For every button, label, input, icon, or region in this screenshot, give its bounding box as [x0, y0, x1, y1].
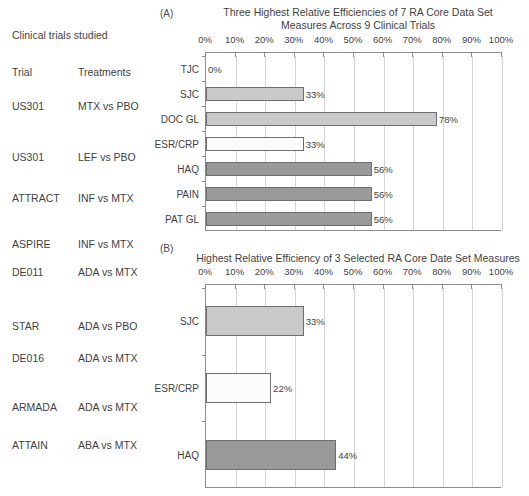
bar-row: 56% [206, 212, 501, 226]
x-tick-label: 20% [255, 266, 274, 277]
gridline [502, 288, 503, 488]
category-label: SJC [144, 88, 199, 99]
category-label: ESR/CRP [144, 383, 199, 394]
x-tick-label: 40% [314, 266, 333, 277]
bar-value-label: 33% [304, 88, 325, 99]
category-label: SJC [144, 316, 199, 327]
bar [206, 440, 336, 470]
x-tick-label: 0% [198, 266, 212, 277]
chart-panel-b: Highest Relative Efficiency of 3 Selecte… [0, 232, 529, 496]
bar-row: 44% [206, 440, 501, 470]
category-label: DOC GL [144, 113, 199, 124]
x-tick-label: 100% [489, 34, 513, 45]
chart-panel-a: Three Highest Relative Efficiencies of 7… [0, 0, 529, 232]
bar-row: 33% [206, 306, 501, 336]
chart-title-line: Measures Across 9 Clinical Trials [190, 19, 526, 32]
bar [206, 112, 437, 126]
bar-value-label: 33% [304, 138, 325, 149]
chart-b-x-tick-labels: 0%10%20%30%40%50%60%70%80%90%100% [0, 266, 529, 280]
chart-a-x-tick-labels: 0%10%20%30%40%50%60%70%80%90%100% [0, 34, 529, 48]
category-label: HAQ [144, 163, 199, 174]
x-tick-label: 80% [432, 34, 451, 45]
x-tick-label: 20% [255, 34, 274, 45]
bar-value-label: 56% [372, 213, 393, 224]
category-label: PAIN [144, 188, 199, 199]
bar-row: 33% [206, 87, 501, 101]
category-tick-mark [202, 131, 206, 132]
x-tick-label: 70% [403, 266, 422, 277]
bar-value-label: 0% [206, 63, 222, 74]
chart-a-plot-area: 0%TJC33%SJC78%DOC GL33%ESR/CRP56%HAQ56%P… [205, 56, 501, 231]
category-tick-mark [202, 106, 206, 107]
category-tick-mark [202, 206, 206, 207]
x-tick-label: 10% [225, 34, 244, 45]
chart-b-title: Highest Relative Efficiency of 3 Selecte… [190, 252, 526, 265]
bar-row: 22% [206, 373, 501, 403]
bar-value-label: 22% [271, 383, 292, 394]
x-tick-label: 0% [198, 34, 212, 45]
x-tick-label: 100% [489, 266, 513, 277]
bar-row: 0% [206, 62, 501, 76]
plot-baseline [206, 487, 501, 488]
bar-row: 56% [206, 162, 501, 176]
x-tick-label: 70% [403, 34, 422, 45]
bar-row: 56% [206, 187, 501, 201]
bar-value-label: 44% [336, 449, 357, 460]
bar [206, 187, 372, 201]
x-tick-label: 40% [314, 34, 333, 45]
chart-a-title: Three Highest Relative Efficiencies of 7… [190, 6, 526, 32]
bar [206, 137, 304, 151]
plot-baseline [206, 230, 501, 231]
bar [206, 162, 372, 176]
chart-b-plot-area: 33%SJC22%ESR/CRP44%HAQ [205, 288, 501, 488]
bar [206, 373, 271, 403]
category-tick-mark [202, 288, 206, 289]
bar-value-label: 56% [372, 188, 393, 199]
x-tick-label: 90% [462, 34, 481, 45]
category-label: HAQ [144, 449, 199, 460]
bar-value-label: 33% [304, 316, 325, 327]
category-tick-mark [202, 355, 206, 356]
category-label: PAT GL [144, 213, 199, 224]
gridline [502, 56, 503, 231]
chart-title-line: Highest Relative Efficiency of 3 Selecte… [190, 252, 526, 265]
bar-value-label: 78% [437, 113, 458, 124]
x-tick-label: 60% [373, 266, 392, 277]
bar [206, 212, 372, 226]
category-label: ESR/CRP [144, 138, 199, 149]
x-tick-label: 30% [284, 34, 303, 45]
x-tick-label: 30% [284, 266, 303, 277]
bar [206, 306, 304, 336]
x-tick-label: 90% [462, 266, 481, 277]
x-tick-label: 10% [225, 266, 244, 277]
chart-title-line: Three Highest Relative Efficiencies of 7… [190, 6, 526, 19]
x-tick-label: 60% [373, 34, 392, 45]
category-label: TJC [144, 63, 199, 74]
category-tick-mark [202, 56, 206, 57]
category-tick-mark [202, 181, 206, 182]
category-tick-mark [202, 156, 206, 157]
category-tick-mark [202, 81, 206, 82]
category-tick-mark [202, 421, 206, 422]
bar-row: 78% [206, 112, 501, 126]
x-tick-label: 50% [343, 34, 362, 45]
x-tick-label: 50% [343, 266, 362, 277]
bar [206, 87, 304, 101]
x-tick-label: 80% [432, 266, 451, 277]
bar-row: 33% [206, 137, 501, 151]
bar-value-label: 56% [372, 163, 393, 174]
